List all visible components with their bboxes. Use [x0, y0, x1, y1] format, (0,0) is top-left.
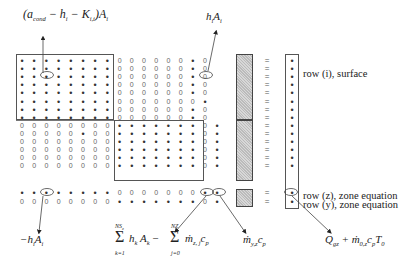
annotation-arrows: [0, 0, 408, 265]
